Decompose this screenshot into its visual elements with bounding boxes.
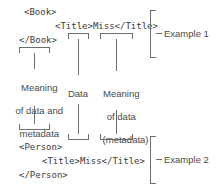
connector-example1-metadata xyxy=(116,39,117,71)
bracket-example2-group xyxy=(150,136,156,184)
annotation-right-line2: of data xyxy=(107,111,136,122)
example1-close-tag: </Book> xyxy=(19,35,57,46)
example2-open-tag: <Person> xyxy=(19,142,62,153)
annotation-left-line1: Meaning xyxy=(21,82,57,93)
connector-example2-data xyxy=(78,104,79,134)
xml-metadata-diagram: <Book> <Title>Miss</Title> </Book> Examp… xyxy=(0,0,221,193)
bracket-example1-group xyxy=(150,10,156,58)
connector-example2-structure xyxy=(34,106,35,124)
example1-caption: Example 1 xyxy=(164,28,209,40)
example1-open-tag: <Book> xyxy=(24,7,57,18)
bracket-example2-metadata xyxy=(100,134,133,140)
connector-example1-data xyxy=(78,39,79,75)
annotation-left-line2: of data and xyxy=(16,105,64,116)
annotation-right-line1: Meaning xyxy=(103,88,139,99)
annotation-data: Data xyxy=(62,88,94,100)
tick-example1-group xyxy=(156,33,162,34)
example2-caption: Example 2 xyxy=(164,154,209,166)
connector-example2-metadata xyxy=(116,110,117,134)
tick-example2-group xyxy=(156,159,162,160)
connector-example1-structure xyxy=(34,53,35,69)
example2-inner-line: <Title>Miss</Title> xyxy=(42,156,145,167)
example2-close-tag: </Person> xyxy=(19,170,68,181)
bracket-example2-structure xyxy=(19,124,50,130)
example1-inner-line: <Title>Miss</Title> xyxy=(55,21,158,32)
bracket-example2-data xyxy=(68,134,89,140)
